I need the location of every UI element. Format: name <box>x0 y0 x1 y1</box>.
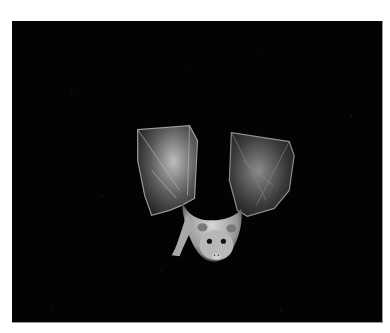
background-specks <box>51 50 351 311</box>
bat-photo: A bat flying with wings raised against a… <box>12 21 383 323</box>
bat-eye-right <box>221 239 226 244</box>
right-wing <box>229 133 294 217</box>
bat-eye-left <box>207 239 212 244</box>
bat-illustration <box>12 21 382 322</box>
